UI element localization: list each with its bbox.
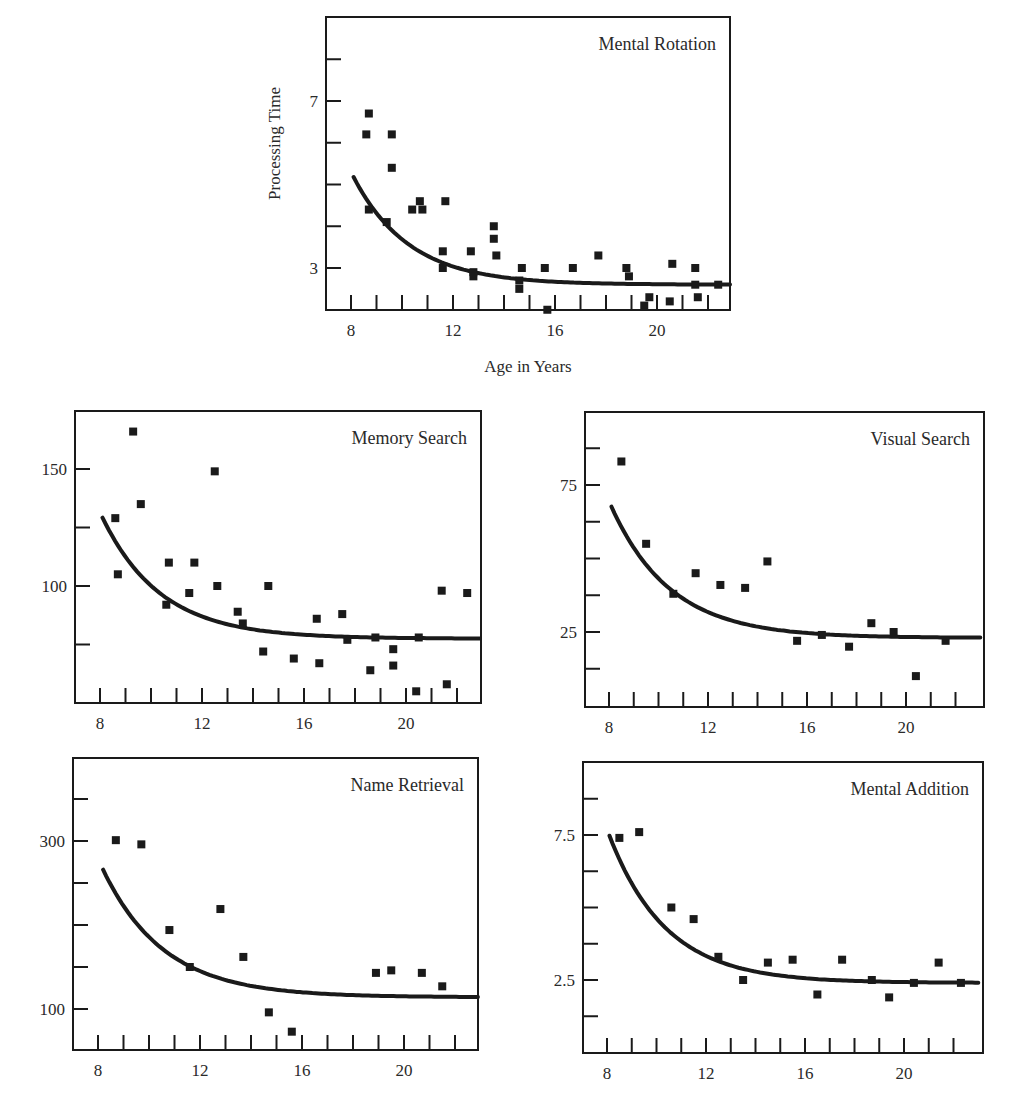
data-point bbox=[867, 619, 875, 627]
data-points bbox=[111, 428, 471, 696]
y-tick-label: 25 bbox=[560, 623, 577, 642]
data-point bbox=[111, 514, 119, 522]
data-point bbox=[438, 587, 446, 595]
y-tick-label: 100 bbox=[40, 1000, 66, 1019]
data-point bbox=[942, 637, 950, 645]
x-tick-label: 20 bbox=[898, 718, 915, 737]
data-point bbox=[211, 467, 219, 475]
y-tick-label: 2.5 bbox=[554, 971, 575, 990]
data-points bbox=[617, 457, 949, 680]
data-point bbox=[313, 615, 321, 623]
data-point bbox=[690, 915, 698, 923]
data-point bbox=[288, 1028, 296, 1036]
data-point bbox=[569, 264, 577, 272]
chart-memory-search: 8121620100150Memory Search bbox=[42, 411, 482, 733]
plot-frame bbox=[73, 758, 478, 1050]
data-point bbox=[910, 979, 918, 987]
x-axis-labels: 8121620 bbox=[94, 1061, 413, 1080]
data-point bbox=[957, 979, 965, 987]
data-point bbox=[129, 428, 137, 436]
data-point bbox=[185, 589, 193, 597]
data-point bbox=[739, 976, 747, 984]
data-point bbox=[343, 636, 351, 644]
data-point bbox=[234, 608, 242, 616]
data-point bbox=[541, 264, 549, 272]
data-point bbox=[264, 582, 272, 590]
data-point bbox=[845, 643, 853, 651]
x-tick-label: 8 bbox=[605, 718, 614, 737]
x-tick-label: 16 bbox=[797, 1064, 814, 1083]
x-tick-label: 8 bbox=[96, 714, 105, 733]
data-point bbox=[763, 557, 771, 565]
data-point bbox=[190, 559, 198, 567]
data-point bbox=[114, 570, 122, 578]
x-tick-label: 16 bbox=[294, 1061, 311, 1080]
y-axis-ticks bbox=[75, 469, 90, 645]
x-axis-ticks bbox=[100, 688, 457, 703]
x-tick-label: 20 bbox=[398, 714, 415, 733]
data-point bbox=[691, 264, 699, 272]
data-point bbox=[669, 590, 677, 598]
chart-title: Visual Search bbox=[871, 429, 970, 449]
data-point bbox=[518, 264, 526, 272]
x-tick-label: 20 bbox=[896, 1064, 913, 1083]
data-point bbox=[388, 164, 396, 172]
data-point bbox=[492, 251, 500, 259]
data-point bbox=[490, 235, 498, 243]
fit-curve bbox=[612, 507, 981, 638]
x-tick-label: 16 bbox=[799, 718, 816, 737]
y-tick-label: 150 bbox=[42, 460, 68, 479]
y-axis-title: Processing Time bbox=[265, 87, 284, 200]
data-point bbox=[213, 582, 221, 590]
data-point bbox=[415, 633, 423, 641]
data-point bbox=[691, 281, 699, 289]
data-point bbox=[622, 264, 630, 272]
data-point bbox=[389, 645, 397, 653]
x-tick-label: 20 bbox=[649, 321, 666, 340]
data-point bbox=[714, 953, 722, 961]
y-tick-label: 100 bbox=[42, 577, 68, 596]
data-point bbox=[389, 662, 397, 670]
y-axis-labels: 2.57.5 bbox=[554, 826, 575, 990]
x-axis-labels: 8121620 bbox=[347, 321, 666, 340]
data-point bbox=[868, 976, 876, 984]
x-tick-label: 8 bbox=[94, 1061, 103, 1080]
data-point bbox=[490, 222, 498, 230]
y-tick-label: 3 bbox=[310, 259, 319, 278]
data-point bbox=[112, 836, 120, 844]
data-point bbox=[594, 251, 602, 259]
x-axis-ticks bbox=[98, 1035, 455, 1050]
fit-curve bbox=[103, 870, 478, 997]
data-point bbox=[789, 956, 797, 964]
x-tick-label: 12 bbox=[194, 714, 211, 733]
data-point bbox=[387, 966, 395, 974]
x-tick-label: 20 bbox=[396, 1061, 413, 1080]
data-point bbox=[467, 247, 475, 255]
data-point bbox=[216, 905, 224, 913]
x-tick-label: 12 bbox=[445, 321, 462, 340]
y-tick-label: 7 bbox=[310, 92, 319, 111]
data-point bbox=[416, 197, 424, 205]
chart-name-retrieval: 8121620100300Name Retrieval bbox=[40, 758, 479, 1080]
plot-frame bbox=[75, 411, 481, 703]
x-tick-label: 8 bbox=[347, 321, 356, 340]
chart-title: Mental Addition bbox=[851, 779, 970, 799]
data-point bbox=[617, 457, 625, 465]
data-point bbox=[885, 993, 893, 1001]
data-point bbox=[388, 130, 396, 138]
plot-frame bbox=[583, 762, 983, 1053]
data-point bbox=[666, 297, 674, 305]
data-point bbox=[412, 687, 420, 695]
data-point bbox=[418, 969, 426, 977]
x-axis-ticks bbox=[351, 295, 708, 310]
data-point bbox=[515, 285, 523, 293]
data-point bbox=[439, 247, 447, 255]
chart-mental-rotation: 812162037Mental RotationAge in YearsProc… bbox=[265, 17, 730, 376]
fit-curve bbox=[103, 518, 480, 639]
data-point bbox=[741, 584, 749, 592]
x-axis-labels: 8121620 bbox=[96, 714, 415, 733]
chart-title: Mental Rotation bbox=[599, 34, 716, 54]
data-point bbox=[438, 982, 446, 990]
data-point bbox=[439, 264, 447, 272]
y-axis-labels: 100300 bbox=[40, 832, 66, 1019]
